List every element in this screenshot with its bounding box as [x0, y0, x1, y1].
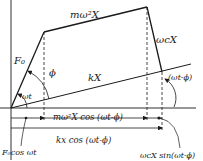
label-damping: ωcX: [156, 34, 178, 45]
spring-force-line: [11, 64, 191, 108]
label-omega-t-minus-phi: (ωt-ϕ): [168, 73, 192, 82]
label-spring-projection: kx cos (ωt-ϕ): [56, 135, 111, 145]
omega-t-minus-phi-arc: [165, 79, 176, 107]
leader-F0cos: [21, 118, 26, 146]
leader-damping: [160, 118, 180, 148]
label-inertia: mω²X: [70, 9, 100, 20]
label-exciting-projection: F₀cos ωt: [1, 148, 37, 157]
label-kX: kX: [88, 72, 102, 83]
force-diagram: mω²X ωcX F₀ ϕ kX ωt (ωt-ϕ) mω²X cos (ωt-…: [0, 0, 203, 161]
label-damping-projection: ωcX sin(ωt-ϕ): [140, 151, 195, 160]
label-F0: F₀: [13, 55, 25, 66]
label-inertia-projection: mω²X cos (ωt-ϕ): [53, 112, 123, 122]
label-omega-t: ωt: [22, 92, 33, 101]
label-phi: ϕ: [49, 67, 56, 78]
